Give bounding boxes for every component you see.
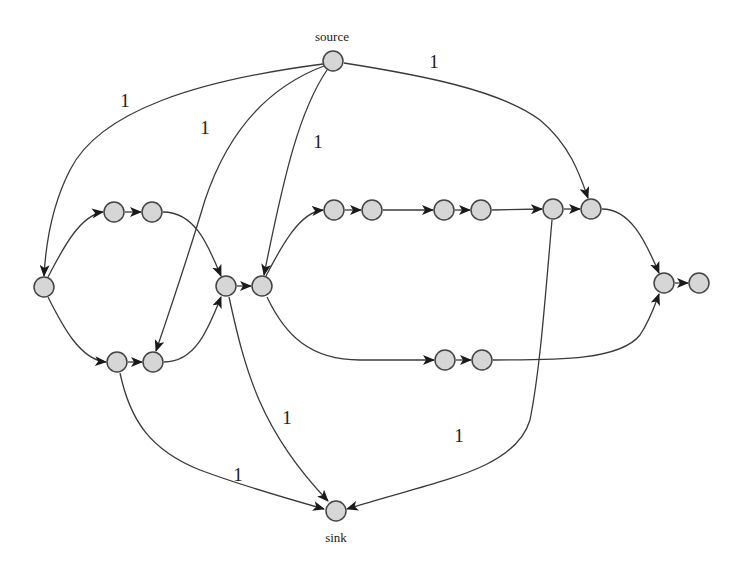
node-j2 <box>689 273 709 293</box>
edge-label-source-h2: 1 <box>429 51 439 72</box>
edge-source-c2 <box>156 66 324 351</box>
edge-label-d-sink: 1 <box>282 407 292 428</box>
edge-label-source-a: 1 <box>120 90 130 111</box>
node-d <box>216 276 236 296</box>
node-e <box>252 276 272 296</box>
node-f2 <box>362 200 382 220</box>
edge-g2-h1 <box>492 209 542 210</box>
node-i2 <box>472 350 492 370</box>
node-g2 <box>471 200 491 220</box>
edge-label-h1-sink: 1 <box>454 425 464 446</box>
edge-c1-sink <box>120 373 324 509</box>
edge-label-c1-sink: 1 <box>233 464 243 485</box>
node-c2 <box>143 352 163 372</box>
node-source <box>323 51 343 71</box>
node-h2 <box>581 199 601 219</box>
node-j1 <box>654 273 674 293</box>
edge-a-b1 <box>48 212 103 277</box>
edge-e-f1 <box>266 210 323 276</box>
edge-c2-d <box>164 297 221 362</box>
node-b1 <box>104 202 124 222</box>
edge-source-a <box>44 64 323 276</box>
edge-e-i1 <box>267 297 434 360</box>
edge-label-source-e: 1 <box>313 131 323 152</box>
node-i1 <box>435 350 455 370</box>
node-h1 <box>543 199 563 219</box>
edge-source-e <box>264 70 327 275</box>
edge-h2-j1 <box>602 209 659 273</box>
node-sink <box>326 501 346 521</box>
edge-label-source-c2: 1 <box>200 117 210 138</box>
label-sink: sink <box>325 530 347 545</box>
edge-i2-j1 <box>493 294 659 360</box>
edge-a-c1 <box>48 297 106 362</box>
node-a <box>34 277 54 297</box>
node-g1 <box>434 200 454 220</box>
node-b2 <box>142 202 162 222</box>
node-c1 <box>107 352 127 372</box>
node-f1 <box>324 200 344 220</box>
label-source: source <box>315 29 349 44</box>
edge-source-h2 <box>344 63 588 198</box>
edge-d-sink <box>229 297 328 501</box>
flow-network-diagram: 1 1 1 1 1 1 1 source sink <box>0 0 735 576</box>
